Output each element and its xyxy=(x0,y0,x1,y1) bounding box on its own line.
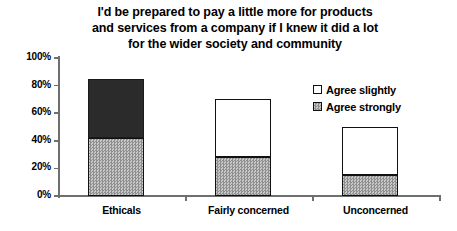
y-tick-label-20: 20% xyxy=(32,161,51,172)
legend-label-agree-slightly: Agree slightly xyxy=(326,84,396,96)
plot-area: 0% 20% 40% 60% 80% 100% xyxy=(58,58,440,196)
y-tick-mark xyxy=(54,112,58,114)
x-tick-1 xyxy=(185,195,187,201)
y-tick-mark xyxy=(54,168,58,170)
y-tick-mark xyxy=(54,57,58,59)
bar-segment-agree-strongly xyxy=(215,157,271,196)
chart-title: I'd be prepared to pay a little more for… xyxy=(40,4,430,52)
chart-title-line-2: and services from a company if I knew it… xyxy=(40,20,430,36)
x-tick-3 xyxy=(439,195,441,201)
bar-segment-agree-slightly xyxy=(88,79,144,138)
y-tick-label-80: 80% xyxy=(32,79,51,90)
x-axis-label-unconcerned: Unconcerned xyxy=(312,204,439,216)
chart-container: I'd be prepared to pay a little more for… xyxy=(0,0,457,231)
y-tick-label-60: 60% xyxy=(32,106,51,117)
y-tick-label-0: 0% xyxy=(37,189,51,200)
chart-title-line-3: for the wider society and community xyxy=(40,36,430,52)
x-tick-2 xyxy=(312,195,314,201)
legend-label-agree-strongly: Agree strongly xyxy=(326,101,401,113)
chart-title-line-1: I'd be prepared to pay a little more for… xyxy=(40,4,430,20)
bar-segment-agree-strongly xyxy=(342,175,398,196)
y-tick-label-100: 100% xyxy=(26,51,51,62)
y-tick-mark xyxy=(54,140,58,142)
y-tick-mark xyxy=(54,85,58,87)
legend-swatch-icon-agree-slightly xyxy=(313,85,322,94)
chart-legend: Agree slightly Agree strongly xyxy=(313,82,401,116)
legend-swatch-icon-agree-strongly xyxy=(313,102,322,111)
x-axis-label-ethicals: Ethicals xyxy=(58,204,185,216)
legend-item-agree-strongly: Agree strongly xyxy=(313,99,401,114)
y-tick-mark xyxy=(54,195,58,197)
bar-segment-agree-strongly xyxy=(88,138,144,196)
x-axis-label-fairly-concerned: Fairly concerned xyxy=(185,204,312,216)
bar-segment-agree-slightly xyxy=(342,127,398,175)
legend-item-agree-slightly: Agree slightly xyxy=(313,82,401,97)
bar-segment-agree-slightly xyxy=(215,99,271,157)
y-tick-label-40: 40% xyxy=(32,134,51,145)
